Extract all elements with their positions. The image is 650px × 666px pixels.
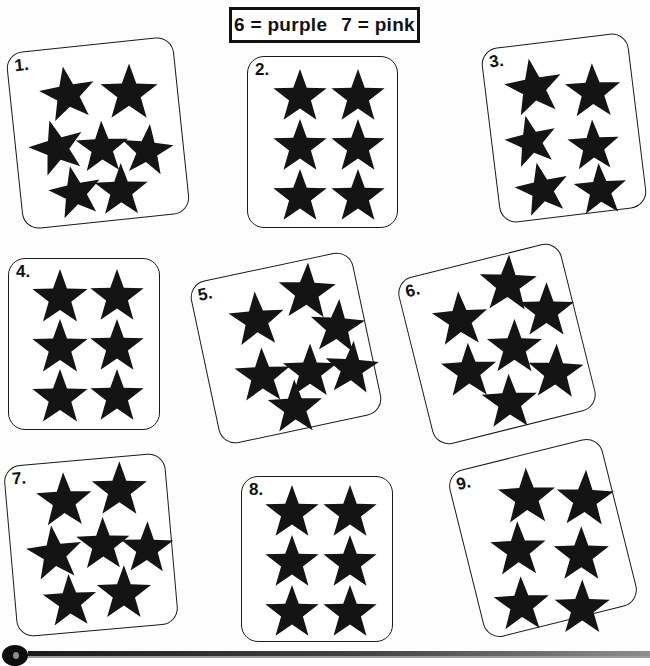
stars-layer-6	[396, 241, 598, 446]
star-icon	[322, 535, 378, 591]
star-icon	[330, 169, 386, 225]
stars-layer-7	[4, 453, 178, 636]
worksheet-page: 6 = purple 7 = pink 1.2.3.4.5.6.7.8.9.	[0, 0, 650, 666]
star-icon	[322, 585, 378, 641]
key-entry-6: 6 = purple	[234, 14, 327, 36]
star-box-6[interactable]: 6.	[395, 240, 600, 448]
star-icon	[272, 69, 328, 125]
star-icon	[272, 169, 328, 225]
star-icon	[488, 520, 548, 580]
color-key-box: 6 = purple 7 = pink	[229, 7, 420, 43]
star-icon	[322, 485, 378, 541]
star-icon	[89, 369, 145, 425]
star-box-label-7: 7.	[11, 468, 27, 489]
star-icon	[264, 585, 320, 641]
star-icon	[571, 161, 630, 220]
star-box-5[interactable]: 5.	[188, 250, 385, 447]
stars-layer-1	[6, 37, 189, 229]
star-box-label-1: 1.	[14, 55, 30, 76]
star-icon	[509, 157, 575, 223]
stars-layer-3	[481, 33, 647, 223]
star-icon	[563, 62, 623, 122]
star-icon	[264, 535, 320, 591]
star-icon	[99, 64, 159, 124]
stars-layer-2	[248, 57, 397, 227]
star-box-7[interactable]: 7.	[3, 452, 179, 637]
star-box-label-4: 4.	[16, 262, 30, 282]
stars-layer-5	[189, 251, 384, 446]
star-box-1[interactable]: 1.	[5, 36, 191, 231]
star-icon	[266, 378, 325, 437]
key-entry-7: 7 = pink	[341, 14, 415, 36]
star-icon	[272, 119, 328, 175]
stars-layer-9	[447, 437, 639, 640]
star-icon	[95, 565, 152, 622]
star-icon	[554, 469, 616, 531]
star-icon	[480, 373, 540, 433]
star-icon	[496, 467, 558, 529]
star-box-9[interactable]: 9.	[446, 435, 641, 640]
star-icon	[552, 526, 610, 584]
footer-dot-center	[13, 652, 19, 659]
stars-layer-4	[9, 259, 159, 429]
footer-dot-icon	[2, 645, 28, 666]
star-box-label-2: 2.	[255, 60, 269, 80]
footer-decoration	[0, 645, 650, 666]
star-icon	[40, 573, 99, 632]
star-icon	[322, 339, 382, 399]
star-icon	[553, 580, 611, 638]
footer-rule-shadow	[28, 656, 650, 658]
star-icon	[330, 119, 386, 175]
star-box-label-3: 3.	[488, 51, 505, 73]
star-icon	[89, 269, 145, 325]
star-icon	[31, 369, 89, 427]
star-icon	[492, 575, 552, 635]
star-box-label-8: 8.	[249, 480, 263, 500]
stars-layer-8	[242, 477, 392, 641]
star-icon	[89, 319, 145, 375]
star-box-8[interactable]: 8.	[241, 476, 393, 642]
star-icon	[330, 69, 386, 125]
star-icon	[90, 461, 148, 519]
star-box-3[interactable]: 3.	[480, 32, 648, 225]
star-box-4[interactable]: 4.	[8, 258, 160, 430]
star-icon	[93, 162, 150, 219]
star-box-2[interactable]: 2.	[247, 56, 398, 228]
star-icon	[264, 485, 320, 541]
